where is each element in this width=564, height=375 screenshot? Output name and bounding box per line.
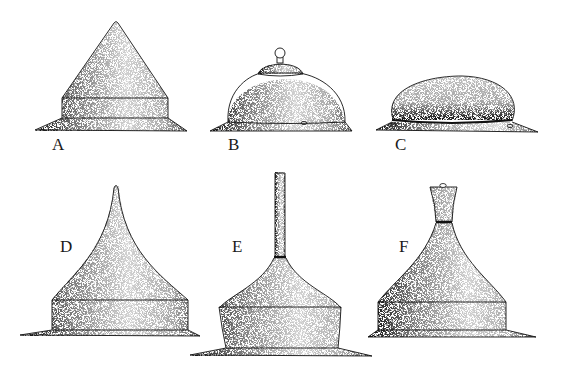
helmet-f-finial-knob: [440, 184, 446, 188]
helmet-f-stipple: [368, 187, 536, 337]
helmet-c-shadow-line: [392, 120, 512, 123]
helmet-f: F: [368, 184, 536, 338]
helmet-b: B: [210, 48, 352, 154]
helmet-c: C: [376, 76, 538, 154]
label-f: F: [399, 237, 408, 256]
helmet-d: D: [20, 186, 200, 337]
helmet-b-stipple: [210, 64, 352, 132]
helmet-b-knob: [275, 48, 285, 63]
label-a: A: [52, 135, 65, 154]
label-d: D: [60, 237, 72, 256]
helmet-e: E: [190, 172, 372, 356]
label-b: B: [228, 135, 239, 154]
helmet-e-stipple: [190, 172, 372, 356]
helmet-typology-figure: A B C D: [0, 0, 564, 375]
helmet-a-stipple: [35, 22, 187, 131]
helmet-d-stipple: [20, 186, 200, 336]
label-c: C: [395, 135, 406, 154]
label-e: E: [232, 237, 242, 256]
helmet-a: A: [35, 22, 187, 155]
